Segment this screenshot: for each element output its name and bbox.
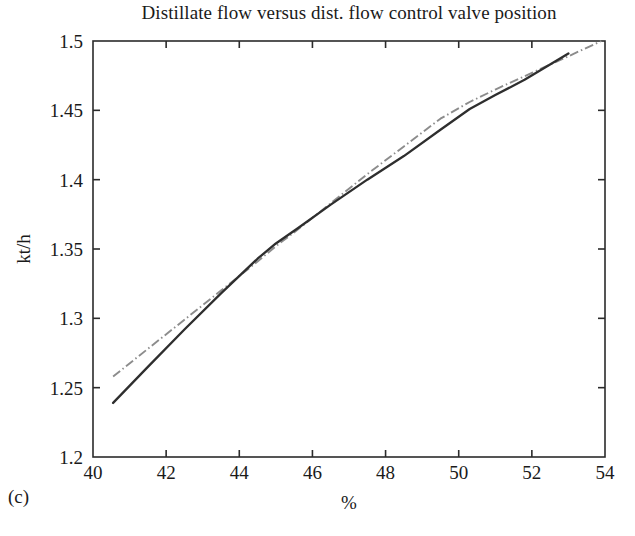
figure-panel: Distillate flow versus dist. flow contro… [0,0,635,536]
x-tick-label: 48 [376,462,395,483]
y-tick-label: 1.5 [59,31,83,52]
y-tick-label: 1.45 [50,100,83,121]
x-tick-label: 50 [449,462,468,483]
x-tick-label: 44 [230,462,250,483]
series-line-measured [113,53,568,402]
x-tick-label: 40 [84,462,103,483]
y-tick-label: 1.35 [50,239,83,260]
x-tick-label: 52 [522,462,541,483]
y-tick-label: 1.25 [50,378,83,399]
y-axis-title: kt/h [13,234,34,264]
x-tick-label: 46 [303,462,322,483]
x-tick-label: 42 [157,462,176,483]
y-tick-label: 1.2 [59,447,83,468]
panel-label: (c) [8,486,29,508]
x-axis-tick-labels: 4042444648505254 [84,462,616,483]
x-tick-label: 54 [596,462,616,483]
y-tick-label: 1.3 [59,308,83,329]
y-axis-ticks [93,110,605,387]
y-tick-label: 1.4 [59,170,83,191]
x-axis-ticks [166,41,532,457]
y-axis-tick-labels: 1.21.251.31.351.41.451.5 [50,31,84,468]
axes-frame [93,41,605,457]
x-axis-title: % [341,492,357,513]
chart-plot: 4042444648505254 1.21.251.31.351.41.451.… [0,0,635,536]
